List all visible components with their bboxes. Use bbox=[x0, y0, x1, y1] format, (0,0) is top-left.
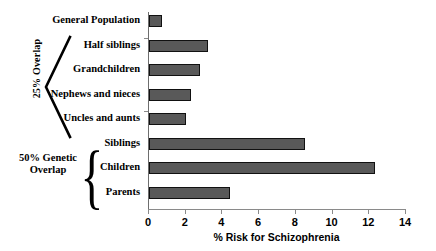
y-axis-tick bbox=[144, 111, 148, 112]
category-label-general-population: General Population bbox=[0, 14, 140, 25]
x-axis-tick-label: 0 bbox=[145, 216, 151, 228]
x-axis-tick bbox=[258, 210, 259, 214]
category-label-grandchildren: Grandchildren bbox=[0, 63, 140, 74]
plot-area: 02468101214 bbox=[148, 14, 405, 210]
bar-half-siblings bbox=[149, 40, 208, 52]
bar-siblings bbox=[149, 138, 305, 150]
x-axis-tick-label: 6 bbox=[255, 216, 261, 228]
y-axis-tick bbox=[144, 38, 148, 39]
bar-parents bbox=[149, 187, 230, 199]
x-axis-tick bbox=[148, 210, 149, 214]
x-axis-tick bbox=[295, 210, 296, 214]
x-axis-tick-label: 8 bbox=[292, 216, 298, 228]
category-axis-labels: General Population Half siblings Grandch… bbox=[0, 14, 144, 210]
x-axis-tick-label: 14 bbox=[399, 216, 411, 228]
x-axis-tick bbox=[368, 210, 369, 214]
bar-chart: 25% Overlap 50% Genetic Overlap { Genera… bbox=[0, 0, 436, 251]
category-label-siblings: Siblings bbox=[0, 137, 140, 148]
x-axis-tick bbox=[405, 210, 406, 214]
category-label-children: Children bbox=[0, 161, 140, 172]
category-label-parents: Parents bbox=[0, 186, 140, 197]
bar-children bbox=[149, 162, 375, 174]
category-label-nephews-and-nieces: Nephews and nieces bbox=[0, 88, 140, 99]
x-axis-tick-label: 4 bbox=[218, 216, 224, 228]
category-label-uncles-and-aunts: Uncles and aunts bbox=[0, 112, 140, 123]
bar-uncles-and-aunts bbox=[149, 113, 186, 125]
x-axis-tick-label: 10 bbox=[325, 216, 337, 228]
category-label-half-siblings: Half siblings bbox=[0, 39, 140, 50]
x-axis-tick bbox=[185, 210, 186, 214]
bar-grandchildren bbox=[149, 64, 200, 76]
x-axis-tick-label: 12 bbox=[362, 216, 374, 228]
x-axis-tick bbox=[221, 210, 222, 214]
bar-general-population bbox=[149, 15, 162, 27]
x-axis-tick-label: 2 bbox=[182, 216, 188, 228]
x-axis-title: % Risk for Schizophrenia bbox=[148, 231, 405, 243]
x-axis-tick bbox=[332, 210, 333, 214]
bar-nephews-and-nieces bbox=[149, 89, 191, 101]
